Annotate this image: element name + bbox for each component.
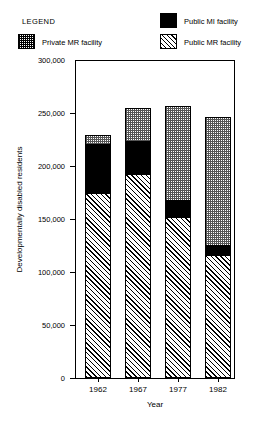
y-tick-150000 [70,219,76,220]
legend-title: LEGEND [22,17,55,26]
bar-1982-public-mi [205,246,231,255]
bar-1967-private-mr [125,108,151,142]
x-tick-1962 [98,378,99,382]
x-axis-title: Year [75,400,235,409]
legend-label-public-mr: Public MR facility [184,38,241,47]
legend-swatch-private-mr-icon [18,34,35,49]
y-tick-label-200000: 200,000 [38,162,65,171]
y-tick-200000 [70,166,76,167]
bar-1982-public-mr [205,255,231,378]
x-axis-line [75,378,235,379]
x-tick-1967 [138,378,139,382]
legend-label-private-mr: Private MR facility [42,38,102,47]
y-tick-label-300000: 300,000 [38,56,65,65]
bar-1967-public-mr [125,174,151,378]
y-tick-100000 [70,272,76,273]
bar-1982-private-mr [205,117,231,246]
y-tick-50000 [70,325,76,326]
y-tick-label-250000: 250,000 [38,109,65,118]
y-tick-0 [70,378,76,379]
y-tick-250000 [70,113,76,114]
bar-1977-public-mr [165,217,191,378]
bar-1977-public-mi [165,201,191,217]
x-tick-1982 [218,378,219,382]
bar-1977-private-mr [165,106,191,201]
x-tick-label-1967: 1967 [118,385,158,394]
plot-right-rule [234,60,235,379]
y-tick-label-0: 0 [61,374,65,383]
bar-1967-public-mi [125,142,151,174]
x-tick-label-1982: 1982 [198,385,238,394]
legend-swatch-public-mr-icon [160,34,177,49]
y-tick-label-150000: 150,000 [38,215,65,224]
legend-label-public-mi: Public MI facility [184,17,238,26]
plot-top-rule [75,60,235,61]
chart-legend: LEGEND Public MI facility Private MR fac… [0,0,264,56]
bar-1962-public-mr [85,193,111,378]
chart-figure: LEGEND Public MI facility Private MR fac… [0,0,264,428]
x-tick-label-1962: 1962 [78,385,118,394]
bar-1962-private-mr [85,135,111,145]
bar-1962-public-mi [85,145,111,193]
y-axis-title: Developmentally disabled residents [15,105,24,315]
legend-swatch-public-mi-icon [160,13,177,28]
y-tick-label-50000: 50,000 [42,321,65,330]
y-tick-label-100000: 100,000 [38,268,65,277]
x-tick-label-1977: 1977 [158,385,198,394]
x-tick-1977 [178,378,179,382]
